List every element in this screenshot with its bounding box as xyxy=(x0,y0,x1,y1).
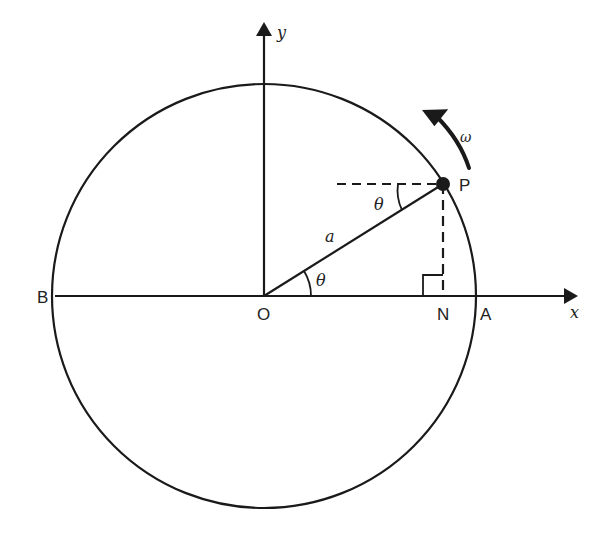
label-theta-origin: θ xyxy=(316,271,326,290)
label-n: N xyxy=(437,305,449,324)
label-a: A xyxy=(480,305,492,324)
label-o: O xyxy=(257,305,270,324)
label-p: P xyxy=(459,176,470,195)
label-b: B xyxy=(37,288,48,307)
label-omega: ω xyxy=(460,129,472,145)
y-axis-arrow-icon xyxy=(256,22,272,36)
x-axis-label: x xyxy=(570,303,579,322)
x-axis-arrow-icon xyxy=(564,288,578,304)
y-axis-label: y xyxy=(276,23,287,42)
radius-line-op xyxy=(264,184,443,296)
angle-arc-origin xyxy=(304,271,311,296)
right-angle-marker xyxy=(423,275,443,296)
label-radius-a: a xyxy=(325,227,335,246)
point-p-dot xyxy=(436,177,450,191)
circular-motion-diagram: y x O P N A B a θ θ ω xyxy=(0,0,609,534)
angle-arc-p xyxy=(398,184,402,210)
label-theta-p: θ xyxy=(374,195,384,214)
